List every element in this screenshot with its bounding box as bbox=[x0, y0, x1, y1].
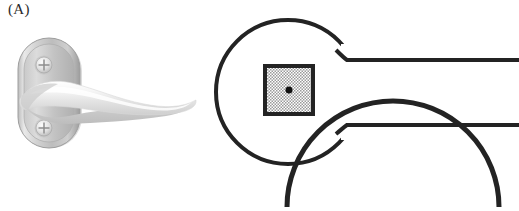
figure-panel: (A) bbox=[0, 0, 519, 211]
spindle-center-dot bbox=[286, 87, 293, 94]
door-lever-handle-line-drawing bbox=[0, 0, 519, 211]
